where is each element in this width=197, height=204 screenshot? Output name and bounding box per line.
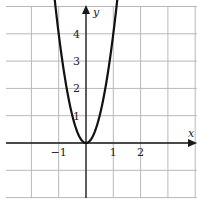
- y-tick-labels: 1234: [73, 28, 80, 123]
- y-axis-label: y: [92, 6, 100, 19]
- x-tick-label: 1: [110, 146, 117, 159]
- x-tick-labels: −112: [51, 146, 145, 159]
- x-tick-label: 2: [137, 146, 144, 159]
- grid-lines: [6, 6, 197, 198]
- parabola-chart: −112 1234 x y: [0, 0, 197, 204]
- y-tick-label: 3: [73, 55, 80, 68]
- y-tick-label: 1: [73, 110, 80, 123]
- y-tick-label: 2: [73, 82, 80, 95]
- x-axis-label: x: [188, 127, 195, 140]
- y-tick-label: 4: [73, 28, 80, 41]
- x-tick-label: −1: [51, 146, 67, 159]
